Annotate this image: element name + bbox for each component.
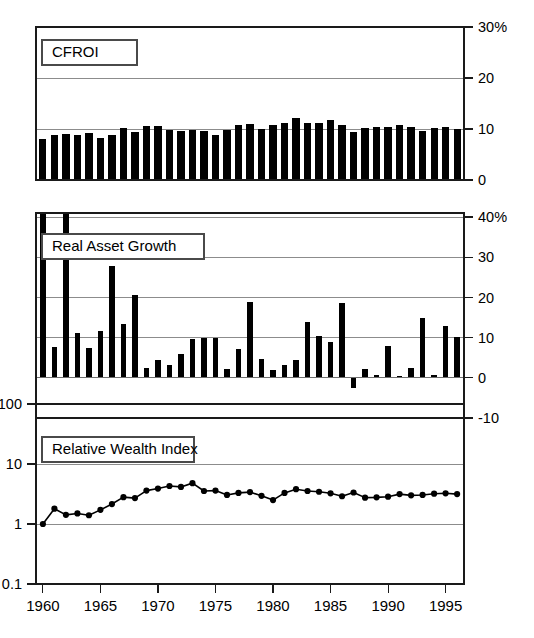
bar (109, 266, 114, 378)
data-point (408, 492, 414, 498)
bar (98, 331, 103, 378)
data-point (166, 483, 172, 489)
data-point (143, 488, 149, 494)
bar (131, 132, 138, 180)
y-tick-label: 30 (478, 249, 494, 265)
x-tick-label: 1965 (84, 597, 117, 614)
data-point (178, 484, 184, 490)
bar (51, 135, 58, 180)
rag-label-text: Real Asset Growth (52, 237, 176, 254)
data-point (270, 497, 276, 503)
data-point (419, 492, 425, 498)
y-tick-label: 10 (478, 121, 494, 137)
data-point (74, 510, 80, 516)
bar (212, 135, 219, 180)
bar (201, 338, 206, 378)
bar (419, 131, 426, 180)
rwi-label-text: Relative Wealth Index (52, 440, 198, 457)
y-tick-label: 0.1 (2, 576, 22, 592)
bar (431, 128, 438, 180)
bar (339, 303, 344, 378)
bar (75, 333, 80, 378)
y-tick-label: 0 (478, 172, 486, 188)
bar (144, 368, 149, 378)
y-tick-label: 10 (478, 330, 494, 346)
bar (327, 120, 334, 180)
bar (39, 139, 46, 180)
bar (223, 130, 230, 180)
bar (315, 123, 322, 180)
data-point (454, 491, 460, 497)
data-point (212, 488, 218, 494)
bar (166, 130, 173, 180)
data-point (120, 494, 126, 500)
bar (108, 135, 115, 180)
y-tick-label: 0 (478, 370, 486, 386)
bar (281, 123, 288, 180)
bar (200, 131, 207, 180)
bar (190, 339, 195, 378)
data-point (63, 512, 69, 518)
bar (246, 124, 253, 180)
x-tick-label: 1995 (429, 597, 462, 614)
data-point (442, 490, 448, 496)
bar (86, 348, 91, 377)
x-tick-label: 1975 (199, 597, 232, 614)
y-tick-label: 100 (0, 396, 22, 412)
y-tick-label: 20 (478, 70, 494, 86)
bar (247, 302, 252, 378)
bar (121, 324, 126, 378)
bar (454, 129, 461, 180)
x-tick-label: 1980 (256, 597, 289, 614)
bar (351, 378, 356, 388)
bar (213, 338, 218, 378)
bar (407, 127, 414, 180)
bar (420, 318, 425, 378)
bar (167, 365, 172, 377)
bar (304, 123, 311, 180)
bar (282, 365, 287, 377)
y-tick-label: 20 (478, 290, 494, 306)
bar (154, 126, 161, 180)
figure-background (0, 0, 534, 638)
bar (120, 128, 127, 180)
financial-triptych-figure: 0102030% CFROI 40%3020100-10 Real Asset … (0, 0, 534, 638)
x-tick-label: 1970 (141, 597, 174, 614)
bar (443, 326, 448, 378)
bar (350, 132, 357, 180)
data-point (327, 490, 333, 496)
data-point (109, 501, 115, 507)
data-point (304, 488, 310, 494)
data-point (258, 493, 264, 499)
data-point (396, 491, 402, 497)
data-point (40, 521, 46, 527)
data-point (316, 489, 322, 495)
x-tick-label: 1990 (371, 597, 404, 614)
bar (454, 337, 459, 378)
bar (293, 360, 298, 378)
data-point (224, 492, 230, 498)
y-tick-label: 30% (478, 19, 507, 35)
y-tick-label: 10 (6, 456, 22, 472)
bar (328, 342, 333, 378)
data-point (385, 494, 391, 500)
data-point (51, 506, 57, 512)
bar (305, 322, 310, 377)
bar (373, 127, 380, 180)
bar (235, 125, 242, 180)
y-tick-label: 40% (478, 209, 507, 225)
bar (258, 129, 265, 180)
bar (259, 359, 264, 378)
data-point (86, 512, 92, 518)
data-point (235, 490, 241, 496)
cfroi-label-text: CFROI (52, 43, 99, 60)
data-point (281, 490, 287, 496)
data-point (293, 486, 299, 492)
bar (224, 369, 229, 378)
bar (338, 125, 345, 180)
bar (236, 349, 241, 378)
bar (362, 369, 367, 378)
data-point (155, 485, 161, 491)
x-tick-label: 1960 (26, 597, 59, 614)
bar (132, 295, 137, 377)
